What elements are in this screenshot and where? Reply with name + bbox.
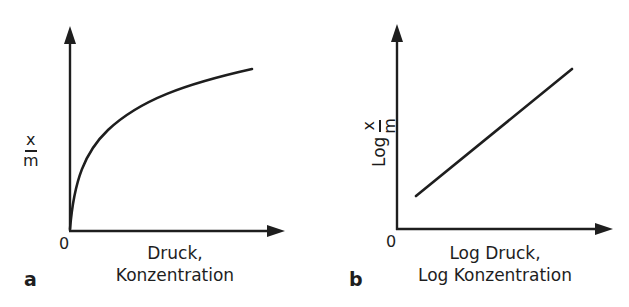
panel-b-xlabel-line1: Log Druck, xyxy=(405,242,585,264)
panel-a-letter: a xyxy=(24,270,37,289)
panel-b-plot xyxy=(391,24,613,235)
panel-b-y-arrow-icon xyxy=(391,24,403,42)
panel-a-ylabel-numerator: x xyxy=(26,132,35,148)
panel-b-ylabel-numerator: x xyxy=(361,121,377,130)
panel-a-isotherm-curve xyxy=(70,69,252,229)
panel-a-ylabel-denominator: m xyxy=(23,153,39,169)
panel-a-x-axis-label: Druck, Konzentration xyxy=(100,242,250,286)
panel-a-xlabel-line1: Druck, xyxy=(100,242,250,264)
panel-b-origin-label: 0 xyxy=(386,234,396,250)
panel-b-log-line xyxy=(416,69,572,196)
panel-a-origin-label: 0 xyxy=(59,236,69,252)
panel-a-x-arrow-icon xyxy=(267,225,285,237)
panel-a-y-arrow-icon xyxy=(64,26,76,44)
panel-a-xlabel-line2: Konzentration xyxy=(100,264,250,286)
panel-b-ylabel-prefix: Log xyxy=(369,137,389,167)
panel-b-xlabel-line2: Log Konzentration xyxy=(405,264,585,286)
panel-b-ylabel-fraction: x m xyxy=(361,118,398,134)
panel-a-y-axis-label: x m xyxy=(23,132,39,169)
panel-b-y-axis-label: Log x m xyxy=(361,118,398,167)
panel-a-plot xyxy=(64,26,285,237)
panel-b-x-arrow-icon xyxy=(595,223,613,235)
panel-b-ylabel-denominator: m xyxy=(382,118,398,134)
panel-b-letter: b xyxy=(349,270,363,289)
panel-b-x-axis-label: Log Druck, Log Konzentration xyxy=(405,242,585,286)
